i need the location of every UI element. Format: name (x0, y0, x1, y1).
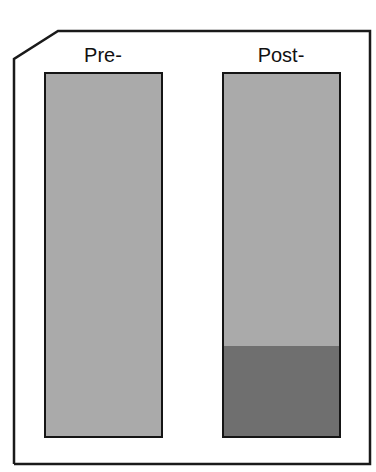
pre-bar (44, 72, 163, 438)
post-bar-light-segment (224, 74, 339, 346)
post-bar-dark-segment (224, 346, 339, 436)
pre-label: Pre- (44, 44, 162, 67)
post-bar (222, 72, 341, 438)
pre-bar-light-segment (46, 74, 161, 436)
post-label: Post- (222, 44, 340, 67)
